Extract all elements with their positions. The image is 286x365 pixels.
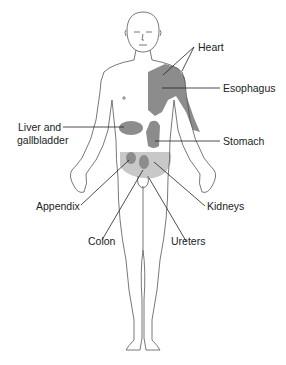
colon-region [139, 155, 149, 169]
label-liver-line2: gallbladder [17, 134, 68, 146]
label-colon: Colon [88, 235, 115, 247]
label-esophagus: Esophagus [223, 82, 276, 94]
body-outline [70, 12, 215, 350]
label-liver-line1: Liver and [18, 121, 61, 133]
leader-lines [63, 47, 220, 241]
stomach-region [146, 121, 160, 148]
label-kidneys: Kidneys [207, 200, 244, 212]
label-stomach: Stomach [223, 135, 264, 147]
label-ureters: Ureters [171, 235, 205, 247]
pain-regions [119, 64, 200, 178]
body-figure [0, 0, 286, 365]
label-heart: Heart [198, 41, 224, 53]
appendix-region [126, 152, 136, 164]
label-appendix: Appendix [36, 200, 80, 212]
liver-region [119, 121, 143, 135]
